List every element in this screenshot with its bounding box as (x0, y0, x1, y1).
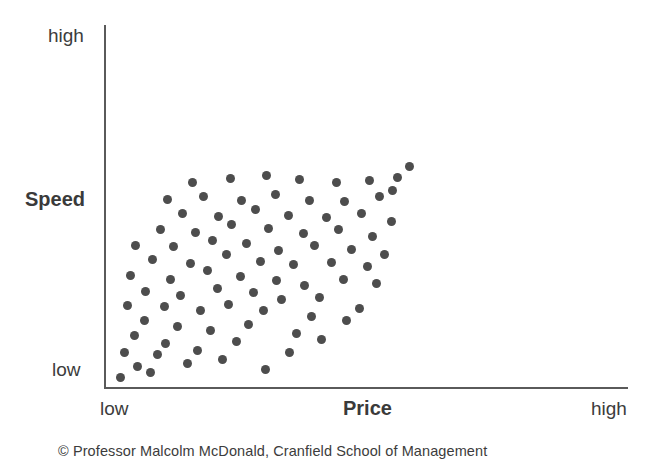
scatter-point (120, 348, 129, 357)
scatter-point (176, 291, 185, 300)
scatter-point (133, 362, 142, 371)
scatter-point (380, 250, 389, 259)
scatter-point (131, 241, 140, 250)
scatter-point (161, 339, 170, 348)
scatter-point (236, 272, 245, 281)
x-axis-title: Price (343, 397, 392, 419)
scatter-point (237, 196, 246, 205)
scatter-point (262, 171, 271, 180)
scatter-point (213, 284, 222, 293)
y-axis-line (104, 25, 106, 389)
scatter-point (332, 178, 341, 187)
scatter-point (224, 300, 233, 309)
scatter-point (388, 186, 397, 195)
scatter-point (387, 217, 396, 226)
scatter-point (227, 220, 236, 229)
scatter-point (123, 301, 132, 310)
x-axis-high-label: high (591, 398, 627, 420)
x-axis-line (104, 387, 628, 389)
scatter-point (222, 250, 231, 259)
scatter-point (146, 368, 155, 377)
scatter-point (264, 224, 273, 233)
scatter-point (191, 228, 200, 237)
scatter-point (183, 359, 192, 368)
scatter-point (295, 175, 304, 184)
scatter-point (365, 176, 374, 185)
scatter-point (339, 275, 348, 284)
scatter-point (226, 174, 235, 183)
scatter-point (203, 266, 212, 275)
scatter-point (140, 316, 149, 325)
scatter-point (393, 173, 402, 182)
scatter-point (214, 212, 223, 221)
scatter-point (355, 304, 364, 313)
scatter-point (274, 246, 283, 255)
scatter-point (116, 373, 125, 382)
scatter-point (169, 242, 178, 251)
scatter-point (334, 225, 343, 234)
scatter-point (173, 322, 182, 331)
scatter-point (148, 255, 157, 264)
scatter-point (357, 209, 366, 218)
scatter-point (315, 293, 324, 302)
scatter-point (244, 320, 253, 329)
scatter-point (342, 316, 351, 325)
scatter-point (299, 229, 308, 238)
scatter-point (305, 196, 314, 205)
scatter-point (272, 276, 281, 285)
scatter-point (206, 326, 215, 335)
scatter-point (208, 236, 217, 245)
plot-area (0, 0, 660, 468)
scatter-point (340, 197, 349, 206)
scatter-chart-figure: high low Speed low Price high © Professo… (0, 0, 660, 468)
copyright-caption: © Professor Malcolm McDonald, Cranfield … (58, 442, 487, 460)
scatter-point (259, 306, 268, 315)
scatter-point (317, 335, 326, 344)
scatter-point (186, 259, 195, 268)
scatter-point (277, 295, 286, 304)
scatter-point (130, 331, 139, 340)
x-axis-low-label: low (100, 398, 129, 420)
scatter-point (310, 241, 319, 250)
scatter-point (307, 312, 316, 321)
scatter-point (285, 348, 294, 357)
scatter-point (292, 329, 301, 338)
scatter-point (322, 213, 331, 222)
scatter-point (141, 287, 150, 296)
scatter-point (160, 302, 169, 311)
scatter-point (327, 258, 336, 267)
scatter-point (251, 205, 260, 214)
scatter-point (166, 275, 175, 284)
y-axis-low-label: low (52, 359, 81, 381)
scatter-point (156, 225, 165, 234)
scatter-point (178, 209, 187, 218)
scatter-point (193, 346, 202, 355)
scatter-point (232, 337, 241, 346)
y-axis-title: Speed (25, 188, 85, 210)
scatter-point (188, 178, 197, 187)
scatter-point (368, 232, 377, 241)
scatter-point (196, 306, 205, 315)
scatter-point (126, 271, 135, 280)
scatter-point (249, 288, 258, 297)
scatter-point (405, 162, 414, 171)
scatter-point (300, 281, 309, 290)
scatter-point (242, 239, 251, 248)
scatter-point (256, 257, 265, 266)
scatter-point (261, 365, 270, 374)
scatter-point (199, 192, 208, 201)
y-axis-high-label: high (48, 25, 84, 47)
scatter-point (284, 211, 293, 220)
scatter-point (163, 195, 172, 204)
scatter-point (271, 190, 280, 199)
scatter-point (153, 350, 162, 359)
scatter-point (375, 192, 384, 201)
scatter-point (289, 260, 298, 269)
scatter-point (347, 245, 356, 254)
scatter-point (218, 355, 227, 364)
scatter-point (363, 262, 372, 271)
scatter-point (372, 279, 381, 288)
